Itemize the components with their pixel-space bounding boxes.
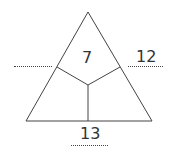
- divider-right: [88, 67, 120, 85]
- right-answer-blank[interactable]: [128, 66, 163, 67]
- right-edge-value: 12: [136, 49, 156, 65]
- top-cell-value: 7: [82, 50, 92, 66]
- left-answer-blank[interactable]: [14, 66, 52, 67]
- bottom-answer-blank[interactable]: [71, 145, 108, 146]
- divider-left: [57, 67, 88, 85]
- bottom-edge-value: 13: [80, 126, 100, 142]
